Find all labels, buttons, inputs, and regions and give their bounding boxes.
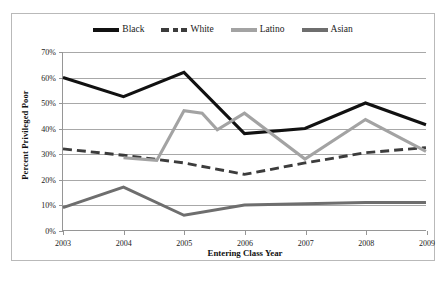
x-axis-tick: [184, 231, 185, 235]
y-axis-tick-label: 50%: [41, 99, 56, 108]
series-line-asian: [63, 187, 426, 215]
x-axis-tick: [427, 231, 428, 235]
dashed-dark-line-swatch: [161, 26, 187, 35]
series-group: [63, 52, 426, 231]
y-axis-tick-label: 20%: [41, 175, 56, 184]
legend-label-latino: Latino: [260, 25, 285, 35]
x-axis-tick: [366, 231, 367, 235]
x-axis-tick-label: 2009: [419, 239, 435, 248]
y-axis-tick-label: 30%: [41, 150, 56, 159]
series-line-latino: [123, 111, 425, 161]
x-axis-tick: [245, 231, 246, 235]
y-axis-title-text: Percent Privileged Poor: [20, 90, 30, 179]
x-axis-tick-label: 2007: [298, 239, 314, 248]
series-line-white: [63, 148, 426, 175]
legend-item-latino[interactable]: Latino: [231, 25, 285, 35]
solid-black-line-swatch: [93, 26, 119, 35]
legend-label-black: Black: [122, 25, 144, 35]
solid-lightgray-line-swatch: [231, 26, 257, 35]
x-axis-tick: [63, 231, 64, 235]
y-axis-tick-label: 60%: [41, 73, 56, 82]
x-axis-tick: [306, 231, 307, 235]
x-axis-tick-label: 2005: [176, 239, 192, 248]
legend-label-asian: Asian: [331, 25, 353, 35]
solid-gray-line-swatch: [302, 26, 328, 35]
x-axis-title: Entering Class Year: [60, 248, 430, 258]
x-axis-tick-label: 2004: [116, 239, 132, 248]
x-axis-tick: [124, 231, 125, 235]
legend-item-white[interactable]: White: [161, 25, 213, 35]
legend-label-white: White: [190, 25, 213, 35]
chart-figure: Black White Latino Asian Percent Privile…: [0, 0, 448, 282]
legend-item-asian[interactable]: Asian: [302, 25, 353, 35]
y-axis-tick-label: 10%: [41, 201, 56, 210]
x-axis-tick-label: 2006: [237, 239, 253, 248]
legend-item-black[interactable]: Black: [93, 25, 144, 35]
x-axis-tick-label: 2008: [358, 239, 374, 248]
chart-legend: Black White Latino Asian: [11, 22, 435, 38]
y-axis-title: Percent Privileged Poor: [18, 52, 32, 217]
y-axis-tick-label: 0%: [45, 227, 56, 236]
y-axis-tick-label: 40%: [41, 124, 56, 133]
x-axis-tick-label: 2003: [55, 239, 71, 248]
y-axis-tick-label: 70%: [41, 48, 56, 57]
plot-wrapper: 0%10%20%30%40%50%60%70% 2003200420052006…: [62, 52, 426, 231]
plot-area: 0%10%20%30%40%50%60%70% 2003200420052006…: [62, 52, 426, 231]
